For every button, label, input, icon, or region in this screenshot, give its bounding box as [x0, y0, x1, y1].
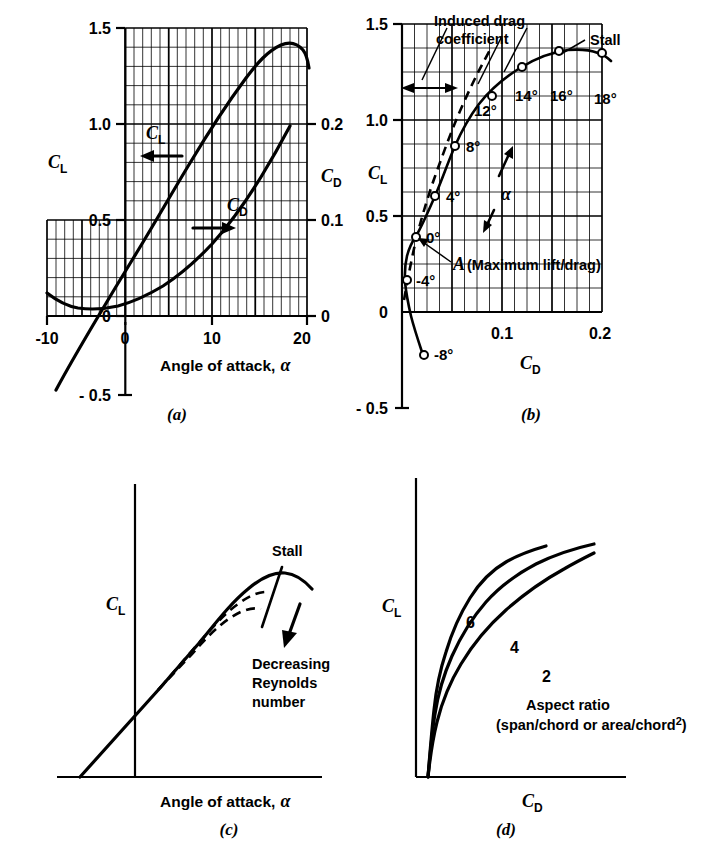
panel-b-xtick-0_2: 0.2: [589, 325, 611, 342]
panel-b-chart: 1.5 1.0 0.5 0 - 0.5 0.1 0.2 CL CD Induce…: [354, 0, 708, 432]
panel-a-xlabel: Angle of attack,α: [160, 355, 291, 375]
datapoint-neg8: [420, 351, 428, 359]
panel-b-ytick-0: 0: [379, 304, 388, 321]
panel-b: 1.5 1.0 0.5 0 - 0.5 0.1 0.2 CL CD Induce…: [354, 0, 708, 432]
figure-container: 1.5 1.0 0.5 0 - 0.5 0.2 0.1 0 -10 0 10 2…: [0, 0, 708, 864]
annotation-aspect-ratio: Aspect ratio: [526, 697, 610, 713]
datapoint-neg4: [403, 276, 411, 284]
curve-label-4: 4: [510, 639, 519, 656]
panel-a-caption: (a): [167, 405, 187, 424]
annotation-maxld: (Maximum lift/drag): [467, 257, 601, 273]
angle-label-16: 16°: [550, 87, 573, 104]
panel-d-ylabel: CL: [382, 596, 401, 620]
panel-c-ylabel: CL: [106, 594, 125, 618]
datapoint-12: [488, 92, 496, 100]
angle-label-4: 4°: [446, 188, 460, 205]
panel-d-chart: 6 4 2 Aspect ratio (span/chord or area/c…: [354, 432, 708, 864]
panel-c: Stall Decreasing Reynolds number CL Angl…: [0, 432, 354, 864]
annotation-reynolds-line3: number: [252, 694, 306, 710]
curve-low-reynolds: [158, 608, 261, 690]
panel-a-xtick-0: 0: [121, 330, 130, 347]
panel-a-ytick-neg0_5: - 0.5: [79, 387, 111, 404]
panel-a-right-axis-label: CD: [321, 166, 342, 190]
angle-label-0: 0°: [426, 229, 440, 246]
panel-a: 1.5 1.0 0.5 0 - 0.5 0.2 0.1 0 -10 0 10 2…: [0, 0, 354, 432]
angle-label-12: 12°: [474, 102, 497, 119]
panel-b-ytick-1_5: 1.5: [366, 16, 388, 33]
panel-b-xtick-0_1: 0.1: [491, 325, 513, 342]
angle-label-neg4: -4°: [416, 272, 435, 289]
panel-c-xlabel: Angle of attack,α: [160, 791, 291, 811]
panel-b-ytick-1_0: 1.0: [366, 112, 388, 129]
panel-a-y2tick-0_2: 0.2: [321, 116, 343, 133]
panel-c-chart: Stall Decreasing Reynolds number CL Angl…: [0, 432, 354, 864]
panel-a-y2tick-0: 0: [321, 308, 330, 325]
axes: [47, 28, 316, 395]
panel-d-xlabel: CD: [522, 791, 543, 815]
cl-direction-arrow: [140, 150, 182, 162]
panel-b-caption: (b): [521, 405, 541, 424]
datapoint-18: [598, 49, 606, 57]
annotation-maxld-symbol: A: [452, 254, 465, 274]
induced-drag-span-arrow: [401, 83, 458, 93]
panel-a-xtick-neg10: -10: [35, 330, 58, 347]
annotation-alpha-symbol: α: [501, 184, 512, 204]
curve-label-2: 2: [542, 668, 551, 685]
annotation-reynolds-line1: Decreasing: [252, 656, 330, 672]
curve-aspect-ratio-2: [428, 553, 594, 777]
panel-a-ytick-0: 0: [102, 308, 111, 325]
angle-label-14: 14°: [515, 87, 538, 104]
curve-mid-reynolds: [160, 592, 269, 688]
annotation-induced-drag-line2: coefficient: [436, 31, 509, 47]
panel-a-ytick-0_5: 0.5: [89, 212, 111, 229]
annotation-induced-drag-line1: Induced drag: [434, 13, 525, 29]
panel-b-ytick-neg0_5: - 0.5: [356, 400, 388, 417]
panel-b-xlabel: CD: [520, 353, 541, 377]
panel-a-curve-label-cd: CD: [227, 195, 248, 219]
annotation-reynolds-line2: Reynolds: [252, 675, 317, 691]
panel-d: 6 4 2 Aspect ratio (span/chord or area/c…: [354, 432, 708, 864]
annotation-aspect-ratio-def: (span/chord or area/chord2): [496, 715, 687, 733]
curve-aspect-ratio-4: [428, 544, 594, 777]
angle-label-8: 8°: [466, 138, 480, 155]
annotation-stall: Stall: [272, 543, 303, 559]
panel-a-ytick-1_5: 1.5: [89, 20, 111, 37]
panel-a-left-axis-label: CL: [48, 152, 67, 176]
panel-a-y2tick-0_1: 0.1: [321, 212, 343, 229]
panel-a-xtick-20: 20: [293, 330, 311, 347]
annotation-stall: Stall: [590, 32, 621, 48]
decreasing-reynolds-arrow: [282, 604, 300, 648]
datapoint-0: [412, 233, 420, 241]
panel-a-chart: 1.5 1.0 0.5 0 - 0.5 0.2 0.1 0 -10 0 10 2…: [0, 0, 354, 432]
panel-a-ytick-1_0: 1.0: [89, 116, 111, 133]
angle-label-18: 18°: [594, 90, 617, 107]
panel-a-xtick-10: 10: [203, 330, 221, 347]
curve-aspect-ratio-6: [428, 546, 546, 777]
grid-minor: [47, 28, 307, 316]
panel-c-caption: (c): [220, 820, 239, 839]
datapoint-14: [518, 63, 526, 71]
datapoint-8: [451, 142, 459, 150]
panel-d-caption: (d): [496, 820, 516, 839]
curve-label-6: 6: [466, 614, 475, 631]
angle-label-neg8: -8°: [434, 346, 453, 363]
datapoint-4: [431, 192, 439, 200]
panel-b-ytick-0_5: 0.5: [366, 208, 388, 225]
panel-b-ylabel: CL: [368, 163, 387, 187]
